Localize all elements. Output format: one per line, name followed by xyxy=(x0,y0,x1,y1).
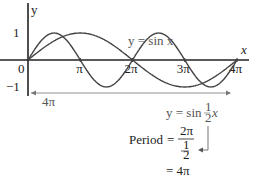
y-axis-label: y xyxy=(31,2,38,17)
span-arrow-right xyxy=(226,91,231,96)
y-tick-label: 1 xyxy=(13,25,20,40)
x-tick-label: 0 xyxy=(18,61,25,76)
period-result: = 4π xyxy=(166,163,190,178)
frac-den: 2 xyxy=(205,110,212,125)
span-label: 4π xyxy=(42,94,56,109)
x-axis-label: x xyxy=(240,42,247,57)
x-tick-label: 3π xyxy=(177,61,191,76)
period-den-den: 2 xyxy=(183,147,190,162)
label-x: x xyxy=(211,105,218,120)
pointer-arrow xyxy=(198,148,203,153)
period-word: Period xyxy=(129,132,163,147)
label-sin-half-x: y = sin xyxy=(166,105,202,120)
span-arrow-left xyxy=(31,91,36,96)
pointer-line xyxy=(200,126,208,150)
chart: yx0π2π3π4π1−1y = sin x4πy = sin12xPeriod… xyxy=(0,0,257,181)
y-tick-label: −1 xyxy=(6,79,20,94)
period-eq: = xyxy=(167,132,174,147)
label-sin-x: y = sin x xyxy=(128,33,174,48)
period-num: 2π xyxy=(180,123,194,138)
